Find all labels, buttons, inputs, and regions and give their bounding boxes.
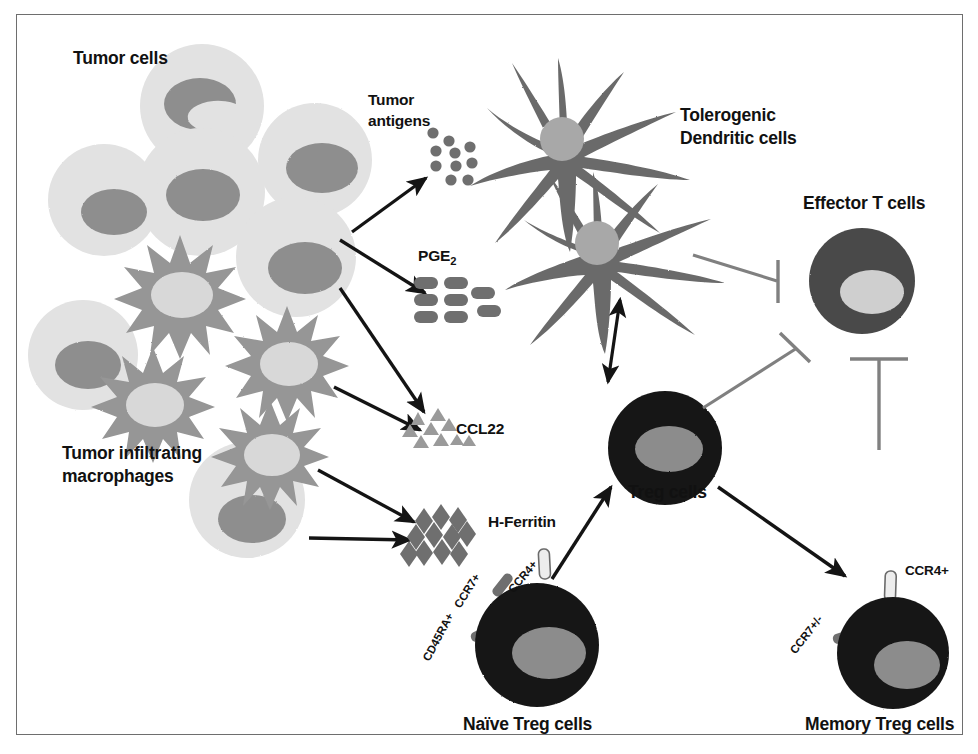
label-ccl22: CCL22 [456,420,504,437]
naive-treg-cell [469,549,599,707]
arrow-macrophage-to-ccl22 [334,387,420,430]
arrow-macrophage-to-hferritin [318,470,414,522]
label-tumor-cells: Tumor cells [73,49,168,69]
receptor-stalk-ccr4-memory [884,571,896,601]
label-macrophages-line2: macrophages [62,467,174,487]
diagram-svg [0,0,978,754]
label-tumor-antigens-line1: Tumor [368,91,414,108]
label-dendritic-line1: Tolerogenic [680,106,776,126]
figure-canvas: Tumor cells Tumor antigens PGE2 CCL22 H-… [0,0,978,754]
label-pge2: PGE2 [418,247,456,268]
dendritic-cells-group [470,58,725,354]
label-effector-t-cells: Effector T cells [803,194,925,214]
tumor-cell [258,103,372,217]
pge2-molecules [414,277,501,323]
memory-treg-cell [832,571,949,709]
arrow-naive-to-treg [552,487,611,579]
inhibition-memory-to-effector [850,359,908,450]
tumor-cell [48,144,160,256]
label-treg-cells: Treg cells [628,483,707,503]
arrow-treg-to-memory [718,487,845,576]
h-ferritin-molecules [400,504,476,567]
arrow-tumor-to-ccl22 [340,288,424,412]
label-macrophages-line1: Tumor infiltrating [62,444,202,464]
arrow-tumorcell-to-hferritin [309,538,410,540]
inhibition-treg-to-effector [703,333,810,408]
tumor-antigens-molecules [427,127,477,185]
label-pge2-subscript: 2 [450,255,456,267]
label-dendritic-line2: Dendritic cells [680,129,797,149]
label-memory-treg-cells: Memory Treg cells [805,715,954,735]
label-h-ferritin: H-Ferritin [488,513,556,530]
receptor-stalk-ccr4 [538,549,551,580]
tumor-cell [236,197,356,317]
label-receptor-ccr4-memory: CCR4+ [905,563,949,578]
label-naive-treg-cells: Naïve Treg cells [463,715,592,735]
macrophage [225,306,349,422]
effector-t-cell [809,228,915,334]
label-tumor-antigens-line2: antigens [368,112,430,129]
label-pge2-main: PGE [418,247,450,264]
